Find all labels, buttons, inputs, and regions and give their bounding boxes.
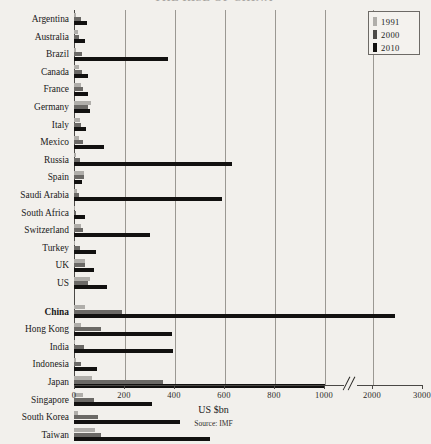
bar-row: Brazil bbox=[0, 46, 427, 64]
bar-2010-germany bbox=[74, 109, 90, 113]
bar-2010-spain bbox=[74, 180, 82, 184]
bar-row: Spain bbox=[0, 169, 427, 187]
x-tick-800 bbox=[274, 385, 275, 389]
row-label-uk: UK bbox=[55, 259, 69, 271]
row-label-china: China bbox=[45, 306, 70, 318]
x-tick-label-1000: 1000 bbox=[315, 390, 333, 400]
bar-row: Mexico bbox=[0, 134, 427, 152]
row-label-germany: Germany bbox=[34, 101, 69, 113]
source-note: Source: IMF bbox=[0, 419, 427, 428]
legend-swatch-2000-icon bbox=[373, 30, 377, 39]
bar-2010-south-africa bbox=[74, 215, 85, 219]
bar-row: UK bbox=[0, 257, 427, 275]
row-label-australia: Australia bbox=[35, 31, 69, 43]
bar-row: Argentina bbox=[0, 11, 427, 29]
bar-row: Germany bbox=[0, 99, 427, 117]
x-tick-label-2000: 2000 bbox=[363, 390, 381, 400]
x-tick-400 bbox=[174, 385, 175, 389]
bar-2010-russia bbox=[74, 162, 232, 166]
row-label-france: France bbox=[43, 83, 69, 95]
bar-row: US bbox=[0, 275, 427, 293]
row-label-spain: Spain bbox=[48, 171, 69, 183]
row-label-italy: Italy bbox=[52, 119, 69, 131]
row-label-india: India bbox=[50, 341, 69, 353]
x-tick-label-3000: 3000 bbox=[413, 390, 431, 400]
row-label-taiwan: Taiwan bbox=[42, 429, 69, 441]
bar-2010-uk bbox=[74, 268, 94, 272]
bar-2010-australia bbox=[74, 39, 85, 43]
bar-row: Italy bbox=[0, 117, 427, 135]
x-tick-3000 bbox=[422, 385, 423, 389]
bar-2010-hong-kong bbox=[74, 332, 172, 336]
x-tick-1000 bbox=[324, 385, 325, 389]
chart-title: THE RISE OF CHINA bbox=[0, 0, 427, 7]
legend: 1991 2000 2010 bbox=[368, 11, 420, 55]
legend-swatch-1991-icon bbox=[373, 17, 377, 26]
bar-row: Indonesia bbox=[0, 356, 427, 374]
bar-row: Taiwan bbox=[0, 427, 427, 444]
bar-row: South Africa bbox=[0, 205, 427, 223]
bar-2010-us bbox=[74, 285, 107, 289]
bar-2010-china bbox=[74, 314, 395, 318]
row-label-canada: Canada bbox=[41, 66, 69, 78]
legend-label-2010: 2010 bbox=[381, 43, 400, 53]
bar-row: China bbox=[0, 304, 427, 322]
bar-2010-indonesia bbox=[74, 367, 97, 371]
legend-item-1991: 1991 bbox=[373, 15, 419, 28]
x-tick-label-600: 600 bbox=[217, 390, 230, 400]
x-tick-label-400: 400 bbox=[167, 390, 180, 400]
bar-2010-mexico bbox=[74, 145, 104, 149]
bar-2010-turkey bbox=[74, 250, 96, 254]
bar-row: Saudi Arabia bbox=[0, 187, 427, 205]
bar-2010-taiwan bbox=[74, 437, 210, 441]
bar-row: Japan bbox=[0, 374, 427, 392]
row-label-argentina: Argentina bbox=[32, 13, 69, 25]
legend-item-2010: 2010 bbox=[373, 41, 419, 54]
x-tick-label-200: 200 bbox=[117, 390, 130, 400]
row-label-mexico: Mexico bbox=[40, 136, 69, 148]
row-label-saudi-arabia: Saudi Arabia bbox=[20, 189, 69, 201]
bar-2010-saudi-arabia bbox=[74, 197, 222, 201]
bar-2010-france bbox=[74, 92, 88, 96]
bar-2010-canada bbox=[74, 74, 88, 78]
bar-2010-brazil bbox=[74, 57, 168, 61]
chart-title-text: THE RISE OF CHINA bbox=[0, 0, 427, 3]
row-label-turkey: Turkey bbox=[42, 242, 69, 254]
bar-2010-india bbox=[74, 349, 173, 353]
row-label-brazil: Brazil bbox=[46, 48, 69, 60]
legend-item-2000: 2000 bbox=[373, 28, 419, 41]
legend-label-2000: 2000 bbox=[381, 30, 400, 40]
row-label-us: US bbox=[57, 277, 69, 289]
x-tick-2000 bbox=[372, 385, 373, 389]
legend-swatch-2010-icon bbox=[373, 43, 377, 52]
bar-row: Turkey bbox=[0, 240, 427, 258]
bar-row: Canada bbox=[0, 64, 427, 82]
row-label-switzerland: Switzerland bbox=[24, 224, 69, 236]
bar-row: Switzerland bbox=[0, 222, 427, 240]
bar-row: Hong Kong bbox=[0, 321, 427, 339]
bar-row: Russia bbox=[0, 152, 427, 170]
bar-row: France bbox=[0, 81, 427, 99]
x-tick-label-800: 800 bbox=[267, 390, 280, 400]
x-axis-line bbox=[74, 385, 422, 386]
x-tick-200 bbox=[124, 385, 125, 389]
x-tick-600 bbox=[224, 385, 225, 389]
axis-break-icon bbox=[343, 376, 357, 390]
bar-2010-argentina bbox=[74, 21, 87, 25]
row-label-japan: Japan bbox=[48, 376, 69, 388]
bar-2010-switzerland bbox=[74, 233, 150, 237]
row-label-indonesia: Indonesia bbox=[33, 358, 69, 370]
row-label-russia: Russia bbox=[44, 154, 69, 166]
x-tick-0 bbox=[74, 385, 75, 389]
bar-row: India bbox=[0, 339, 427, 357]
x-tick-label-0: 0 bbox=[72, 390, 76, 400]
row-label-south-africa: South Africa bbox=[21, 207, 69, 219]
row-label-hong-kong: Hong Kong bbox=[25, 323, 69, 335]
legend-label-1991: 1991 bbox=[381, 17, 400, 27]
x-axis-caption: US $bn bbox=[0, 404, 427, 415]
bar-2010-italy bbox=[74, 127, 86, 131]
bar-row: Australia bbox=[0, 29, 427, 47]
